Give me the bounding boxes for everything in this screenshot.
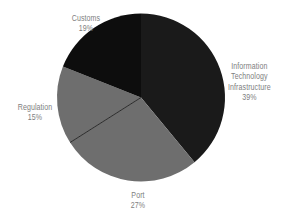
- slice-label-customs-name: Customs: [58, 14, 113, 24]
- slice-label-information-technology-infrastructure: Information Technology Infrastructure 39…: [228, 62, 271, 104]
- slice-value-information-technology-infrastructure: 39%: [228, 93, 271, 103]
- pie-slice-group: [57, 14, 225, 182]
- slice-value-regulation: 15%: [8, 113, 61, 123]
- slice-label-line-3: Infrastructure: [228, 83, 271, 93]
- slice-label-regulation: Regulation 15%: [8, 103, 61, 124]
- slice-value-customs: 19%: [58, 24, 113, 34]
- slice-label-line-2: Technology: [228, 72, 271, 82]
- slice-label-line-1: Information: [228, 62, 271, 72]
- slice-label-port: Port 27%: [114, 191, 162, 212]
- slice-label-customs: Customs 19%: [58, 14, 113, 35]
- slice-value-port: 27%: [114, 201, 162, 211]
- slice-label-port-name: Port: [114, 191, 162, 201]
- slice-label-regulation-name: Regulation: [8, 103, 61, 113]
- pie-chart-figure: Information Technology Infrastructure 39…: [0, 0, 289, 224]
